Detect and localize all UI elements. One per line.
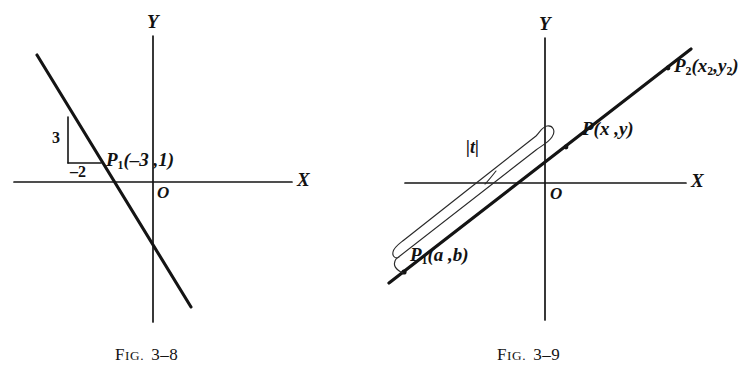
caption-prefix-smallcaps-fig39: IG. bbox=[507, 348, 526, 363]
point-label-p2-fig39: P2(x2,y2) bbox=[674, 56, 739, 78]
point-label-p1-letter-fig39: P bbox=[410, 244, 422, 265]
caption-fig-3-8: FIG.3–8 bbox=[115, 345, 178, 365]
x-axis-label-fig39: X bbox=[691, 171, 704, 190]
y-axis-label-fig38: Y bbox=[147, 12, 159, 31]
point-dot-p2-fig39 bbox=[666, 66, 671, 71]
point-label-p1-fig38: P1(–3 ,1) bbox=[106, 150, 174, 172]
plotted-line-fig38 bbox=[37, 55, 191, 307]
point-label-p-letter-fig39: P bbox=[582, 118, 594, 139]
point-label-p2-coords-open-fig39: (x bbox=[692, 55, 708, 76]
segment-measure-label-fig39: |t| bbox=[466, 138, 479, 156]
origin-label-fig39: O bbox=[550, 185, 562, 202]
point-label-p2-coords-mid-fig39: ,y bbox=[713, 55, 726, 76]
caption-prefix-fig39: F bbox=[497, 345, 507, 364]
caption-fig-3-9: FIG.3–9 bbox=[497, 345, 560, 365]
point-label-p1-fig39: P1(a ,b) bbox=[410, 245, 469, 267]
caption-number-fig39: 3–9 bbox=[533, 345, 560, 364]
point-label-p-fig39: P(x ,y) bbox=[582, 119, 634, 138]
point-label-p2-letter-fig39: P bbox=[674, 55, 686, 76]
caption-prefix-fig38: F bbox=[115, 345, 125, 364]
point-label-p1-coords-fig39: (a ,b) bbox=[428, 244, 469, 265]
caption-prefix-smallcaps-fig38: IG. bbox=[125, 348, 144, 363]
x-axis-label-fig38: X bbox=[297, 170, 310, 189]
point-label-p1-letter: P bbox=[106, 149, 118, 170]
figure-page: Y X O 3 –2 P1(–3 ,1) FIG.3–8 Y X O |t| P… bbox=[0, 0, 756, 380]
point-dot-p-fig39 bbox=[564, 145, 569, 150]
caption-number-fig38: 3–8 bbox=[151, 345, 178, 364]
point-label-p-coords-fig39: (x ,y) bbox=[594, 118, 634, 139]
slope-rise-label-fig38: 3 bbox=[52, 130, 60, 146]
point-label-p1-coords: (–3 ,1) bbox=[124, 149, 175, 170]
y-axis-label-fig39: Y bbox=[539, 14, 551, 33]
fig-3-8-drawing bbox=[0, 0, 756, 380]
slope-run-label-fig38: –2 bbox=[70, 164, 86, 180]
origin-label-fig38: O bbox=[157, 184, 169, 201]
point-label-p2-coords-close-fig39: ) bbox=[732, 55, 738, 76]
